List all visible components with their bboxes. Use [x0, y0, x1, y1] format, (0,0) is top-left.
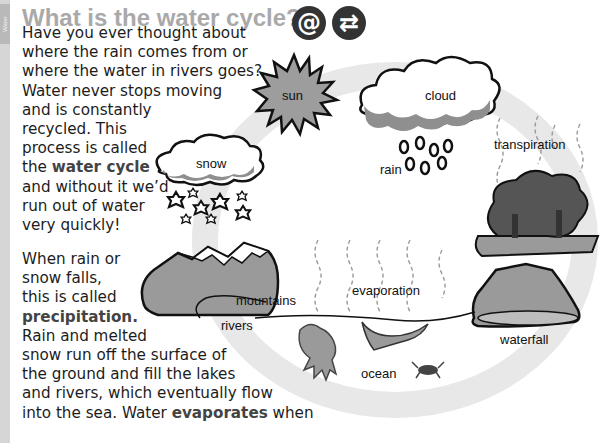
label-mountains: mountains — [236, 293, 296, 308]
text-run: the — [22, 158, 52, 176]
label-evaporation: evaporation — [352, 283, 420, 298]
paragraph-precipitation: When rain or snow falls, this is called … — [22, 250, 314, 423]
label-transpiration: transpiration — [494, 137, 566, 152]
evaporation-lines — [315, 240, 445, 312]
exchange-arrows-icon[interactable]: ⇄ — [332, 6, 366, 40]
text-line: Rain and melted — [22, 327, 314, 346]
text-line: snow falls, — [22, 269, 314, 288]
text-line: where the rain comes from or — [22, 43, 262, 62]
text-line: snow run off the surface of — [22, 346, 314, 365]
text-line: recycled. This — [22, 120, 262, 139]
label-rain: rain — [380, 162, 402, 177]
manta-ray-icon — [362, 322, 428, 350]
text-line: and rivers, which eventually flow — [22, 384, 314, 403]
text-line: When rain or — [22, 250, 314, 269]
label-snow: snow — [196, 156, 226, 171]
label-cloud: cloud — [425, 88, 456, 103]
term-evaporates: evaporates — [172, 404, 268, 422]
label-rivers: rivers — [221, 318, 253, 333]
text-line: where the water in rivers goes? — [22, 62, 262, 81]
label-ocean: ocean — [361, 366, 396, 381]
text-line: run out of water — [22, 197, 262, 216]
text-line: precipitation. — [22, 308, 314, 327]
paragraph-intro: Have you ever thought about where the ra… — [22, 24, 262, 235]
text-line: into the sea. Water evaporates when — [22, 404, 314, 423]
term-water-cycle: water cycle — [52, 158, 150, 176]
at-icon[interactable]: @ — [292, 6, 326, 40]
text-line: and without it we’d — [22, 178, 262, 197]
label-waterfall: waterfall — [500, 332, 548, 347]
text-run: when — [268, 404, 314, 422]
text-line: very quickly! — [22, 216, 262, 235]
label-sun: sun — [282, 88, 303, 103]
text-run: into the sea. Water — [22, 404, 172, 422]
text-line: the ground and fill the lakes — [22, 365, 314, 384]
lobster-icon — [412, 362, 444, 378]
title-icons: @ ⇄ — [292, 6, 366, 40]
text-line: Have you ever thought about — [22, 24, 262, 43]
term-precipitation: precipitation. — [22, 308, 138, 326]
text-line: and is constantly — [22, 101, 262, 120]
waterfall-icon — [473, 264, 580, 327]
text-line: Water never stops moving — [22, 82, 262, 101]
rain-drops-icon — [400, 137, 452, 174]
